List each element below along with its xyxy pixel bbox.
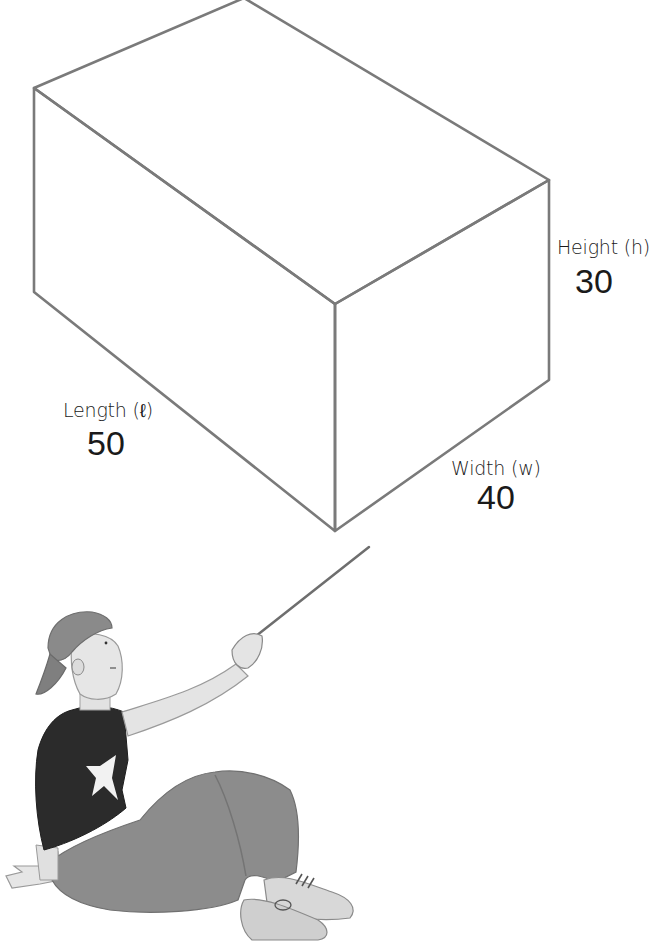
prism-diagram <box>0 0 664 941</box>
pointing-arm <box>122 664 248 736</box>
back-arm <box>36 845 58 880</box>
width-label: Width (w) <box>451 457 541 479</box>
width-value: 40 <box>477 478 515 517</box>
pointing-hand <box>232 634 262 669</box>
height-value: 30 <box>575 262 613 301</box>
shirt <box>36 706 128 850</box>
boy-illustration <box>6 547 369 940</box>
ear <box>72 659 84 675</box>
length-label: Length (ℓ) <box>63 399 153 422</box>
eye <box>105 642 108 645</box>
height-label: Height (h) <box>557 236 650 258</box>
length-value: 50 <box>87 424 125 463</box>
left-face <box>34 88 335 531</box>
pointer-stick <box>256 547 369 636</box>
top-face <box>34 0 549 304</box>
